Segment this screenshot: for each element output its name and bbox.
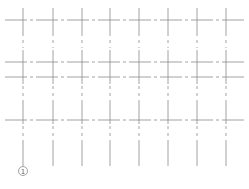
axis-bubble-label: 1 — [21, 168, 25, 176]
grid-drawing: 1 — [0, 0, 249, 189]
